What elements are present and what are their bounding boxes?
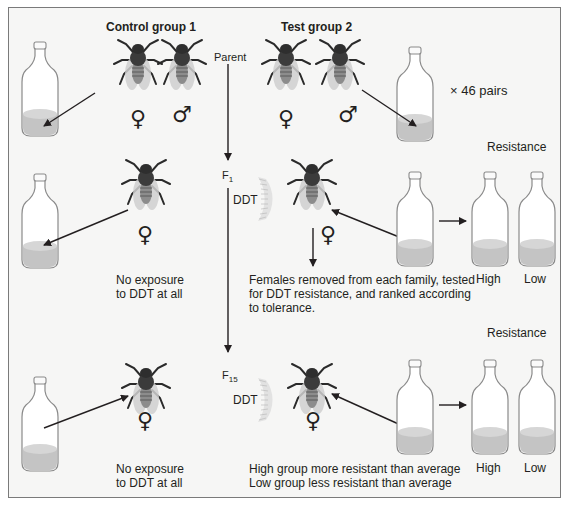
ddt-spray-f15 (258, 378, 273, 422)
male-symbol-icon: ♂ (338, 104, 358, 126)
test-f15-bottle (397, 360, 433, 454)
pairs-count-label: × 46 pairs (450, 84, 507, 98)
test-f15-female-fly (288, 364, 336, 414)
test-f1-female-fly (288, 160, 336, 210)
test-parent-bottle (397, 47, 433, 141)
test-f15-caption-line1: High group more resistant than average (249, 462, 460, 476)
test-group-header: Test group 2 (281, 20, 352, 34)
test-f15-caption-line2: Low group less resistant than average (249, 476, 452, 490)
female-symbol-icon: ♀ (320, 224, 336, 246)
test-f1-caption-line1: Females removed from each family, tested (249, 273, 475, 287)
f15-high-bottle (472, 360, 508, 454)
f1-high-bottle (472, 172, 508, 266)
test-f1-caption-line3: to tolerance. (249, 301, 315, 315)
diagram-graphics (0, 0, 572, 509)
ddt-label-f15: DDT (233, 393, 258, 407)
female-symbol-icon: ♀ (305, 410, 321, 432)
f15-label: F15 (222, 368, 238, 387)
control-f1-female-fly (122, 160, 170, 210)
parent-label: Parent (214, 50, 246, 64)
f15-low-bottle (519, 360, 555, 454)
female-symbol-icon: ♀ (130, 108, 146, 130)
f1-base: F (222, 169, 229, 181)
control-f1-caption-line1: No exposure (116, 273, 184, 287)
female-symbol-icon: ♀ (278, 108, 294, 130)
control-f15-female-fly (122, 364, 170, 414)
resistance-label-f15: Resistance (487, 326, 546, 340)
f1-low-bottle (519, 172, 555, 266)
female-symbol-icon: ♀ (137, 410, 153, 432)
low-label-f1: Low (524, 272, 546, 286)
ddt-spray-f1 (258, 177, 273, 221)
high-label-f1: High (476, 272, 501, 286)
control-f1-bottle (22, 174, 58, 268)
control-f15-caption-line2: to DDT at all (116, 476, 182, 490)
control-group-header: Control group 1 (106, 20, 196, 34)
test-male-fly (316, 40, 364, 90)
female-symbol-icon: ♀ (137, 224, 153, 246)
male-symbol-icon: ♂ (172, 104, 192, 126)
control-female-fly (114, 40, 162, 90)
test-f1-bottle (397, 172, 433, 266)
control-f1-caption-line2: to DDT at all (116, 287, 182, 301)
control-f15-caption-line1: No exposure (116, 462, 184, 476)
control-parent-bottle (22, 42, 58, 136)
f15-subscript: 15 (229, 375, 238, 384)
test-f1-caption-line2: for DDT resistance, and ranked according (249, 287, 471, 301)
f15-base: F (222, 369, 229, 381)
test-female-fly (262, 40, 310, 90)
low-label-f15: Low (524, 461, 546, 475)
ddt-label-f1: DDT (233, 193, 258, 207)
control-male-fly (158, 40, 206, 90)
f1-subscript: 1 (229, 175, 233, 184)
resistance-label-f1: Resistance (487, 140, 546, 154)
f1-label: F1 (222, 168, 233, 187)
high-label-f15: High (476, 461, 501, 475)
